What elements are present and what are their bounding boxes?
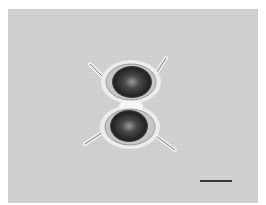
desmid-cell	[0, 0, 266, 205]
scale-bar	[200, 180, 232, 182]
lower-semicell	[110, 110, 148, 142]
upper-semicell	[112, 66, 152, 98]
